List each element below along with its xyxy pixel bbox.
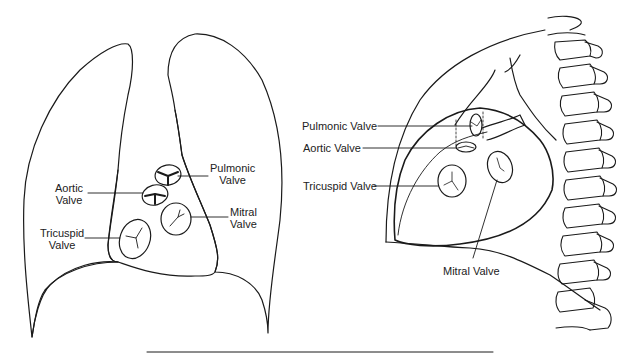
label-mitral-valve-lateral: Mitral Valve (443, 265, 500, 277)
label-mitral-valve-frontal: Mitral Valve (230, 206, 257, 230)
label-line-2: Valve (55, 194, 83, 206)
label-aortic-valve-frontal: Aortic Valve (55, 182, 83, 206)
pulmonary-artery (482, 115, 525, 140)
label-line-1: Pulmonic (210, 162, 255, 174)
label-line-1: Mitral (230, 206, 257, 218)
heart-valves-diagram (0, 0, 641, 358)
label-pulmonic-valve-frontal: Pulmonic Valve (210, 162, 255, 186)
label-line-1: Aortic (55, 182, 83, 194)
label-line-2: Valve (40, 239, 84, 251)
label-aortic-valve-lateral: Aortic Valve (303, 142, 361, 154)
label-tricuspid-valve-lateral: Tricuspid Valve (303, 180, 377, 192)
mitral-leader-lateral (473, 180, 497, 258)
pulmonic-valve-frontal (153, 163, 182, 187)
label-line-2: Valve (210, 174, 255, 186)
label-tricuspid-valve-frontal: Tricuspid Valve (40, 227, 84, 251)
tricuspid-valve-frontal (114, 215, 156, 263)
mitral-valve-frontal (161, 203, 191, 235)
heart-outline-lateral (394, 108, 553, 246)
label-pulmonic-valve-lateral: Pulmonic Valve (302, 120, 377, 132)
lateral-view (363, 16, 616, 330)
aortic-valve-lateral (456, 142, 476, 152)
tricuspid-valve-lateral (438, 165, 466, 197)
mitral-valve-lateral (483, 148, 516, 186)
label-line-1: Tricuspid (40, 227, 84, 239)
aortic-valve-frontal (140, 182, 170, 208)
spine (548, 16, 616, 330)
label-line-2: Valve (230, 218, 257, 230)
chest-outline (386, 30, 545, 242)
pulmonic-valve-lateral (470, 114, 482, 136)
diaphragm-line (32, 262, 118, 337)
